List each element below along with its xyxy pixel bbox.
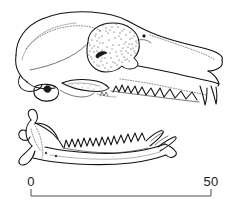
zygomatic-arch-inner	[68, 83, 100, 86]
orbit-outline	[87, 23, 139, 72]
zygomatic-arch	[62, 80, 109, 92]
mental-foramen-second	[45, 152, 47, 154]
scale-bar-left-label: 0	[27, 174, 34, 189]
upper-alveolar-guide	[120, 79, 206, 95]
skull-cranium-group	[16, 12, 223, 105]
occipital-outline	[16, 55, 27, 82]
mandible-ventral-margin	[33, 155, 166, 165]
skull-figure: 0 50	[0, 0, 237, 212]
upper-toothrow	[111, 79, 206, 102]
infraorbital-foramen	[143, 35, 146, 38]
orbit-stippled	[87, 23, 139, 72]
palate-contour	[97, 94, 116, 97]
lower-molar-cusps	[64, 133, 145, 148]
skull-illustration: 0 50	[0, 0, 237, 212]
angular-process	[19, 146, 35, 165]
upper-molar-cusps	[113, 85, 197, 100]
scale-bar: 0 50	[27, 174, 218, 196]
upper-tooth-base-line	[111, 91, 199, 102]
masseteric-fossa	[34, 124, 43, 158]
temporal-ridge	[30, 45, 86, 70]
upper-incisor	[211, 86, 217, 104]
scale-bar-right-label: 50	[204, 174, 219, 189]
upper-canine	[200, 86, 207, 105]
postorbital-notch	[138, 40, 151, 43]
optic-foramen	[96, 52, 107, 58]
mandibular-condyle	[19, 130, 30, 140]
parietal-suture	[26, 26, 101, 49]
orbit-stipple-texture	[89, 24, 138, 71]
lower-toothrow	[63, 131, 176, 153]
scale-bar-rule	[31, 189, 211, 196]
mandible-group	[19, 109, 177, 165]
cranium-inner-contour	[22, 23, 76, 60]
upper-small-premolars	[100, 92, 108, 96]
nasal-suture	[150, 35, 215, 60]
masseteric-fossa-lower	[31, 129, 41, 151]
coronoid-anterior-edge	[26, 120, 32, 146]
foramen-dark	[44, 86, 51, 93]
rostrum-anterior-outline	[208, 60, 222, 71]
maxilla-ventral-margin	[138, 66, 219, 84]
mandible-symphysis	[165, 144, 176, 157]
lower-anterior-teeth	[146, 131, 163, 146]
